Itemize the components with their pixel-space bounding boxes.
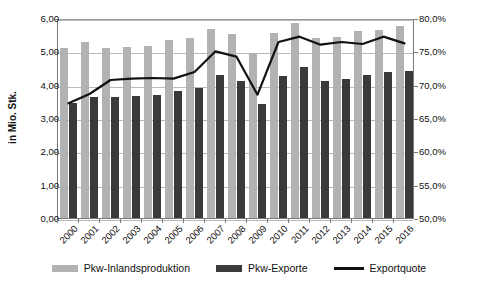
x-axis-tick-mark [225,219,226,223]
y-axis-secondary-tick-mark [414,119,418,120]
x-axis-tick-mark [183,219,184,223]
x-axis-tick-mark [78,219,79,223]
x-axis-tick-mark [57,219,58,223]
y-axis-tick-mark [53,86,57,87]
legend-label: Pkw-Inlandsproduktion [84,262,190,274]
plot-area [57,19,414,219]
legend-label: Pkw-Exporte [248,262,308,274]
legend-swatch-line-icon [334,267,364,270]
y-axis-tick-mark [53,52,57,53]
legend-item-inlandsproduktion: Pkw-Inlandsproduktion [52,262,190,274]
x-axis-tick-mark [372,219,373,223]
y-axis-secondary-tick-mark [414,219,418,220]
y-axis-secondary-tick-label: 60,0% [419,147,478,157]
x-axis-tick-mark [99,219,100,223]
legend-swatch-bar-icon [216,265,242,272]
y-axis-secondary-tick-label: 65,0% [419,114,478,124]
y-axis-tick-label: 1,00 [0,181,59,191]
gridline [58,220,413,221]
legend-item-exportquote: Exportquote [334,262,427,274]
y-axis-tick-label: 0,00 [0,214,59,224]
x-axis-tick-mark [288,219,289,223]
y-axis-secondary-tick-mark [414,152,418,153]
legend-swatch-bar-icon [52,265,78,272]
y-axis-tick-label: 2,00 [0,147,59,157]
y-axis-secondary-tick-label: 75,0% [419,47,478,57]
chart-container: in Mio. Stk. 0,001,002,003,004,005,006,0… [0,0,478,286]
legend-label: Exportquote [370,262,427,274]
x-axis-tick-mark [330,219,331,223]
y-axis-secondary-tick-mark [414,186,418,187]
y-axis-tick-mark [53,119,57,120]
x-axis-tick-mark [309,219,310,223]
y-axis-secondary-tick-mark [414,52,418,53]
y-axis-tick-label: 3,00 [0,114,59,124]
y-axis-tick-label: 4,00 [0,81,59,91]
y-axis-tick-mark [53,19,57,20]
y-axis-secondary-tick-mark [414,19,418,20]
x-axis-tick-mark [393,219,394,223]
y-axis-secondary-tick-label: 70,0% [419,81,478,91]
x-axis-tick-mark [246,219,247,223]
x-axis-tick-mark [120,219,121,223]
y-axis-secondary-tick-label: 55,0% [419,181,478,191]
y-axis-tick-label: 6,00 [0,14,59,24]
chart-legend: Pkw-Inlandsproduktion Pkw-Exporte Export… [0,262,478,274]
y-axis-tick-mark [53,152,57,153]
x-axis-tick-mark [351,219,352,223]
legend-item-exporte: Pkw-Exporte [216,262,308,274]
x-axis-tick-mark [267,219,268,223]
x-axis-tick-mark [204,219,205,223]
y-axis-secondary-tick-mark [414,86,418,87]
y-axis-secondary-tick-label: 80,0% [419,14,478,24]
x-axis-tick-mark [141,219,142,223]
y-axis-tick-mark [53,186,57,187]
line-series-exportquote [58,20,415,220]
y-axis-tick-label: 5,00 [0,47,59,57]
x-axis-tick-mark [162,219,163,223]
y-axis-secondary-tick-label: 50,0% [419,214,478,224]
